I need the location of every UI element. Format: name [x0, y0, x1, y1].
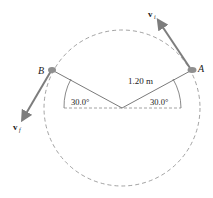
- velocity-arrow-b: [24, 71, 51, 117]
- velocity-arrow-a: [160, 23, 190, 68]
- svg-text:i: i: [154, 14, 156, 20]
- angle-right-label: 30.0°: [150, 97, 168, 107]
- svg-text:v: v: [13, 122, 18, 132]
- velocity-a-label: v i: [148, 9, 156, 20]
- velocity-b-label: v f: [13, 122, 22, 133]
- point-b-label: B: [38, 65, 44, 76]
- radius-label: 1.20 m: [128, 76, 153, 86]
- point-b-marker: [48, 67, 56, 73]
- angle-left-label: 30.0°: [71, 97, 89, 107]
- angle-arc-right: [173, 79, 181, 108]
- svg-text:f: f: [19, 127, 22, 133]
- projectile-circle-diagram: A B 1.20 m 30.0° 30.0° v i v f: [0, 0, 213, 198]
- angle-arc-left: [64, 79, 71, 108]
- point-a-label: A: [197, 63, 205, 74]
- point-a-marker: [188, 67, 197, 73]
- svg-text:v: v: [148, 9, 153, 19]
